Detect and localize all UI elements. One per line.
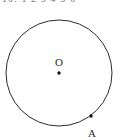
point-a-label: A (88, 127, 96, 139)
figure-canvas: 10. 1 2 3 4 5 6 O A (0, 0, 120, 140)
center-point-label: O (55, 56, 63, 68)
circle-diagram: O A (0, 0, 120, 140)
point-a-dot (89, 114, 92, 117)
center-point-dot (57, 71, 60, 74)
